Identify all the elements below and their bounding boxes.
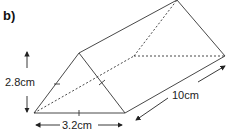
triangular-prism-diagram: b) xyxy=(0,0,228,139)
length-label: 10cm xyxy=(172,90,199,101)
front-face xyxy=(34,53,125,113)
height-label: 2.8cm xyxy=(5,77,35,88)
prism-drawing xyxy=(0,0,228,139)
base-label: 3.2cm xyxy=(62,120,92,131)
